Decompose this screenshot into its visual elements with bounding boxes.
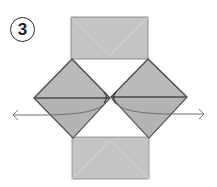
top-square [71,17,148,59]
bottom-square-face [72,137,149,179]
left-diamond-flap [34,59,110,138]
left-diamond-lower-half [34,98,110,138]
bottom-square [72,137,149,179]
right-diamond-lower-half [111,97,187,138]
top-square-face [71,17,148,59]
origami-diagram [0,0,217,187]
right-diamond-flap [111,59,187,138]
